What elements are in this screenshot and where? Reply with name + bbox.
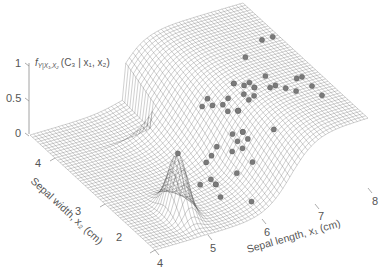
y-tick-2: 2 [116, 231, 122, 243]
x-tick-5: 5 [210, 242, 216, 254]
z-tick-0: 0 [15, 127, 21, 139]
scatter-point [231, 81, 236, 86]
mesh-line [93, 61, 306, 193]
scatter-point [218, 194, 223, 199]
scatter-point [240, 129, 245, 134]
scatter-point [198, 182, 203, 187]
x-tick-8: 8 [372, 195, 378, 207]
scatter-point [209, 153, 214, 158]
mesh-line [63, 33, 276, 165]
scatter-point [294, 76, 299, 81]
x-axis-label: Sepal length, x₁ (cm) [245, 217, 341, 255]
scatter-point [268, 85, 273, 90]
scatter-point [226, 96, 231, 101]
class-c3-scatter-points [175, 34, 324, 204]
mesh-line [222, 9, 347, 125]
scatter-point [252, 85, 257, 90]
scatter-point [250, 160, 255, 165]
scatter-point [213, 182, 218, 187]
mesh-line [98, 113, 223, 230]
scatter-point [240, 146, 245, 151]
scatter-point [236, 108, 241, 113]
scatter-point [270, 34, 275, 39]
scatter-point [246, 97, 251, 102]
mesh-line [126, 63, 251, 219]
scatter-point [230, 149, 235, 154]
mesh-line [215, 11, 340, 127]
scatter-point [252, 93, 257, 98]
mesh-line [90, 116, 215, 232]
scatter-point [241, 92, 246, 97]
mesh-line [165, 28, 290, 177]
x-tick-4: 4 [157, 257, 163, 269]
scatter-point [208, 177, 213, 182]
mesh-line [40, 12, 253, 144]
scatter-point [263, 73, 268, 78]
scatter-point [234, 171, 239, 176]
scatter-point [283, 86, 288, 91]
scatter-point [243, 55, 248, 60]
scatter-point [230, 132, 235, 137]
scatter-point [294, 89, 299, 94]
scatter-point [204, 160, 209, 165]
mesh-line [115, 104, 240, 224]
scatter-point [309, 83, 314, 88]
scatter-point [205, 96, 210, 101]
scatter-point [242, 83, 247, 88]
scatter-point [214, 144, 219, 149]
scatter-point [200, 104, 205, 109]
z-tick-1: 1 [15, 57, 21, 69]
mesh-line [225, 8, 350, 124]
scatter-point [273, 83, 278, 88]
scatter-point [271, 127, 276, 132]
scatter-point [259, 37, 264, 42]
mesh-line [38, 10, 251, 142]
surface-plot: 1 0.5 0 fY|X₁,X₂(C₃ | x₁, x₂) 4 3 2 Sepa… [0, 0, 387, 272]
z-tick-0-5: 0.5 [6, 92, 21, 104]
scatter-point [247, 80, 252, 85]
scatter-point [319, 93, 324, 98]
y-tick-4: 4 [35, 157, 41, 169]
z-axis-label: fY|X₁,X₂(C₃ | x₁, x₂) [35, 57, 110, 70]
scatter-point [299, 74, 304, 79]
scatter-point [235, 139, 240, 144]
scatter-point [220, 102, 225, 107]
mesh-line [108, 108, 233, 226]
mesh-line [90, 58, 303, 190]
scatter-point [175, 151, 180, 156]
scatter-point [249, 199, 254, 204]
scatter-point [245, 136, 250, 141]
scatter-point [225, 109, 230, 114]
scatter-point [210, 103, 215, 108]
